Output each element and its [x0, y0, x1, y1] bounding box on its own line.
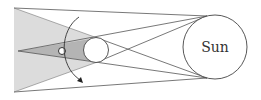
moon [84, 38, 109, 63]
sun-label: Sun [201, 39, 229, 55]
outer-tangent-top [14, 8, 207, 16]
eclipse-diagram: Sun [0, 0, 261, 100]
